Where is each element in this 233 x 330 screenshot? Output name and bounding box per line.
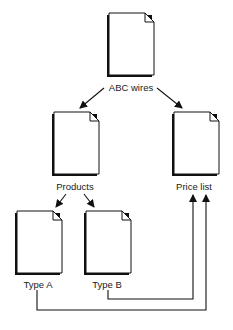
edge-abc-products <box>80 88 104 108</box>
edge-products-typeb <box>84 194 94 207</box>
label-price-list: Price list <box>176 181 212 192</box>
label-products: Products <box>56 181 94 192</box>
edge-abc-pricelist <box>157 88 182 108</box>
document-icon-type-a <box>15 211 62 275</box>
document-icon-abc-wires <box>107 13 154 77</box>
document-icon-price-list <box>172 112 219 176</box>
document-icon-type-b <box>84 211 131 275</box>
label-type-a: Type A <box>23 279 52 290</box>
document-icon-products <box>52 112 99 176</box>
label-abc-wires: ABC wires <box>109 82 153 93</box>
label-type-b: Type B <box>92 279 122 290</box>
edge-products-typea <box>56 194 66 207</box>
